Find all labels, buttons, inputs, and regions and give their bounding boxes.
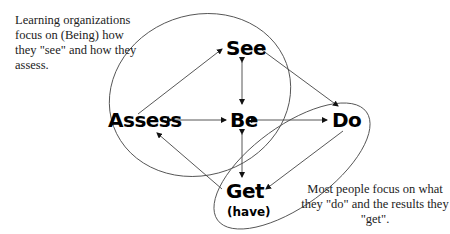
- node-be: Be: [230, 110, 258, 130]
- learning-organizations-note: Learning organizations focus on (Being) …: [15, 13, 140, 73]
- arrow-get-to-assess: [157, 133, 222, 189]
- node-see: See: [226, 38, 266, 58]
- arrow-do-to-get: [266, 131, 343, 189]
- node-do: Do: [332, 110, 361, 130]
- node-assess: Assess: [108, 110, 182, 130]
- arrow-see-to-do: [262, 50, 338, 106]
- diagram-canvas: Learning organizations focus on (Being) …: [0, 0, 450, 234]
- arrow-assess-to-see: [138, 49, 222, 114]
- most-people-note: Most people focus on what they "do" and …: [300, 182, 450, 227]
- node-get: Get: [226, 181, 264, 201]
- node-get-subtitle: (have): [227, 206, 271, 218]
